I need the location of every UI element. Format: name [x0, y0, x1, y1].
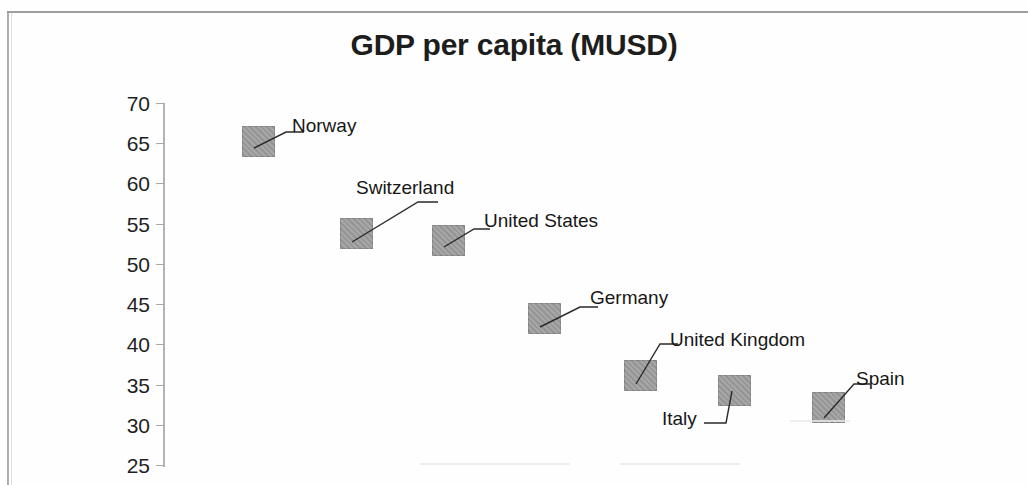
data-point-marker[interactable] [812, 392, 845, 423]
data-point-label: Norway [292, 116, 356, 135]
data-point-marker[interactable] [624, 360, 657, 391]
data-point-label: United Kingdom [670, 330, 805, 349]
y-axis-tick-label: 35 [104, 375, 150, 396]
plot-area: 70656055504540353025 NorwaySwitzerlandUn… [0, 0, 1028, 485]
data-point-label: United States [484, 211, 598, 230]
y-axis-tick-label: 55 [104, 214, 150, 235]
scan-artifact [420, 463, 570, 465]
data-point-label: Spain [856, 369, 905, 388]
y-axis-tick [156, 264, 165, 265]
data-point-label: Italy [662, 409, 697, 428]
y-axis-tick [156, 465, 165, 466]
y-axis-tick-label: 65 [104, 133, 150, 154]
y-axis-tick [156, 425, 165, 426]
y-axis-tick [156, 143, 165, 144]
data-point-marker[interactable] [718, 375, 751, 406]
y-axis-tick [156, 183, 165, 184]
data-point-label: Switzerland [356, 178, 454, 197]
y-axis-tick-label: 25 [104, 455, 150, 476]
data-point-marker[interactable] [432, 225, 465, 256]
y-axis-tick-label: 70 [104, 93, 150, 114]
y-axis-tick [156, 103, 165, 104]
data-point-marker[interactable] [242, 126, 275, 157]
data-point-label: Germany [590, 288, 668, 307]
y-axis-tick-label: 45 [104, 294, 150, 315]
y-axis-tick-label: 50 [104, 254, 150, 275]
y-axis-tick-label: 30 [104, 415, 150, 436]
scan-artifact [620, 463, 740, 465]
y-axis-tick-label: 60 [104, 173, 150, 194]
data-point-marker[interactable] [528, 303, 561, 334]
y-axis-tick [156, 304, 165, 305]
y-axis-line [163, 103, 165, 467]
scan-artifact [790, 420, 850, 422]
y-axis-tick [156, 385, 165, 386]
y-axis-tick [156, 224, 165, 225]
y-axis-tick [156, 344, 165, 345]
y-axis-tick-label: 40 [104, 334, 150, 355]
data-point-marker[interactable] [340, 218, 373, 249]
chart-page: GDP per capita (MUSD) 706560555045403530… [0, 0, 1028, 485]
